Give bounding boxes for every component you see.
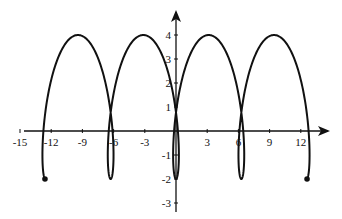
x-tick-label: -3 <box>140 136 150 148</box>
x-ticks: -15-12-9-6-336912 <box>13 129 307 148</box>
parametric-curve-chart: -15-12-9-6-336912 4321-1-2-3 <box>0 0 342 219</box>
endpoint-dot <box>304 176 310 182</box>
x-tick-label: 3 <box>204 136 210 148</box>
endpoint-dot <box>42 176 48 182</box>
y-tick-label: 1 <box>166 101 172 113</box>
x-tick-label: -15 <box>13 136 28 148</box>
y-tick-label: 3 <box>166 53 172 65</box>
y-tick-label: -3 <box>162 197 172 209</box>
y-tick-label: -1 <box>162 149 171 161</box>
y-tick-label: -2 <box>162 173 171 185</box>
x-tick-label: 9 <box>267 136 273 148</box>
x-tick-label: -12 <box>44 136 59 148</box>
x-tick-label: 12 <box>295 136 306 148</box>
y-tick-label: 4 <box>166 29 172 41</box>
x-tick-label: -9 <box>78 136 88 148</box>
